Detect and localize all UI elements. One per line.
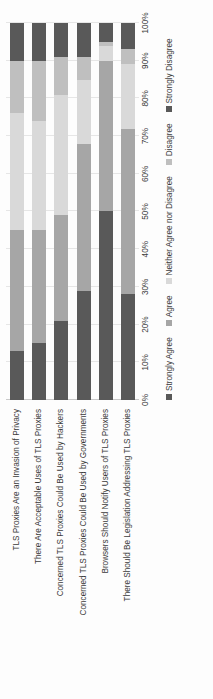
value-axis-tick-labels: 0%10%20%30%40%50%60%70%80%90%100% bbox=[141, 23, 155, 400]
category-label: Concerned TLS Proxies Could Be Used by G… bbox=[77, 409, 91, 615]
bar-segment[interactable] bbox=[54, 95, 68, 216]
bar-segment[interactable] bbox=[121, 129, 135, 295]
category-label: There Are Acceptable Uses of TLS Proxies bbox=[32, 409, 46, 564]
bar-segment[interactable] bbox=[54, 321, 68, 400]
bar-segment[interactable] bbox=[121, 23, 135, 49]
category-label: TLS Proxies Are an Invasion of Privacy bbox=[10, 409, 24, 551]
bar-row[interactable] bbox=[99, 23, 113, 400]
bar-segment[interactable] bbox=[10, 23, 24, 61]
bar-segment[interactable] bbox=[99, 61, 113, 212]
bar-segment[interactable] bbox=[77, 23, 91, 57]
tick-label: 20% bbox=[141, 316, 150, 332]
bar-segment[interactable] bbox=[32, 23, 46, 61]
gridline-0% bbox=[6, 399, 139, 400]
gridline-20% bbox=[6, 324, 139, 325]
legend-item[interactable]: Disagree bbox=[165, 123, 174, 165]
bar-segment[interactable] bbox=[10, 351, 24, 400]
gridline-40% bbox=[6, 248, 139, 249]
legend-item[interactable]: Agree bbox=[165, 295, 174, 326]
tick-label: 70% bbox=[141, 128, 150, 144]
gridline-60% bbox=[6, 173, 139, 174]
tick-label: 50% bbox=[141, 203, 150, 219]
category-label: There Should Be Legislation Addressing T… bbox=[121, 409, 135, 601]
gridline-10% bbox=[6, 361, 139, 362]
gridline-50% bbox=[6, 211, 139, 212]
rotated-figure-wrapper: TLS Proxies Are an Invasion of PrivacyTh… bbox=[0, 0, 213, 699]
legend-swatch-icon bbox=[166, 159, 172, 165]
bar-segment[interactable] bbox=[99, 46, 113, 61]
tick-label: 10% bbox=[141, 354, 150, 370]
tick-label: 60% bbox=[141, 166, 150, 182]
bar-segment[interactable] bbox=[54, 57, 68, 95]
bar-segment[interactable] bbox=[77, 57, 91, 80]
bar-segment[interactable] bbox=[121, 64, 135, 128]
gridline-30% bbox=[6, 286, 139, 287]
legend-swatch-icon bbox=[166, 106, 172, 112]
bar-segment[interactable] bbox=[10, 114, 24, 231]
bar-row[interactable] bbox=[54, 23, 68, 400]
gridline-80% bbox=[6, 97, 139, 98]
bar-segment[interactable] bbox=[121, 294, 135, 400]
legend-swatch-icon bbox=[166, 278, 172, 284]
legend-swatch-icon bbox=[166, 320, 172, 326]
bar-segment[interactable] bbox=[32, 61, 46, 121]
bar-segment[interactable] bbox=[54, 23, 68, 57]
legend-label: Strongly Disagree bbox=[165, 38, 174, 103]
tick-label: 90% bbox=[141, 53, 150, 69]
bar-segment[interactable] bbox=[32, 343, 46, 400]
bar-row[interactable] bbox=[32, 23, 46, 400]
tick-label: 80% bbox=[141, 90, 150, 106]
bar-segment[interactable] bbox=[121, 49, 135, 64]
bar-row[interactable] bbox=[77, 23, 91, 400]
bar-row[interactable] bbox=[121, 23, 135, 400]
legend-item[interactable]: Neither Agree nor Disagree bbox=[165, 176, 174, 284]
tick-label: 30% bbox=[141, 279, 150, 295]
stacked-bar-chart: TLS Proxies Are an Invasion of PrivacyTh… bbox=[0, 0, 213, 699]
bar-segment[interactable] bbox=[99, 23, 113, 42]
bar-segment[interactable] bbox=[32, 121, 46, 230]
gridline-70% bbox=[6, 135, 139, 136]
legend-item[interactable]: Strongly Agree bbox=[165, 337, 174, 400]
plot-area bbox=[6, 23, 139, 400]
tick-label: 40% bbox=[141, 241, 150, 257]
legend-item[interactable]: Strongly Disagree bbox=[165, 38, 174, 112]
bar-segment[interactable] bbox=[10, 230, 24, 351]
bar-segment[interactable] bbox=[32, 230, 46, 343]
bar-segment[interactable] bbox=[54, 215, 68, 321]
legend-label: Neither Agree nor Disagree bbox=[165, 176, 174, 275]
bar-segment[interactable] bbox=[77, 291, 91, 400]
category-label: Concerned TLS Proxies Could Be Used by H… bbox=[54, 409, 68, 596]
legend-label: Agree bbox=[165, 295, 174, 317]
gridline-100% bbox=[6, 22, 139, 23]
legend-label: Disagree bbox=[165, 123, 174, 156]
tick-label: 0% bbox=[141, 394, 150, 406]
bar-row[interactable] bbox=[10, 23, 24, 400]
category-label: Browsers Should Notify Users of TLS Prox… bbox=[99, 409, 113, 574]
legend-label: Strongly Agree bbox=[165, 337, 174, 391]
tick-label: 100% bbox=[141, 13, 150, 34]
chart-stage: TLS Proxies Are an Invasion of PrivacyTh… bbox=[0, 0, 213, 699]
category-axis-labels: TLS Proxies Are an Invasion of PrivacyTh… bbox=[6, 405, 139, 699]
legend-swatch-icon bbox=[166, 394, 172, 400]
bar-segment[interactable] bbox=[99, 42, 113, 46]
chart-legend: Strongly AgreeAgreeNeither Agree nor Dis… bbox=[162, 10, 176, 400]
bar-segment[interactable] bbox=[77, 80, 91, 144]
bar-segment[interactable] bbox=[77, 144, 91, 291]
bar-segment[interactable] bbox=[10, 61, 24, 114]
bar-segment[interactable] bbox=[99, 212, 113, 401]
gridline-90% bbox=[6, 60, 139, 61]
